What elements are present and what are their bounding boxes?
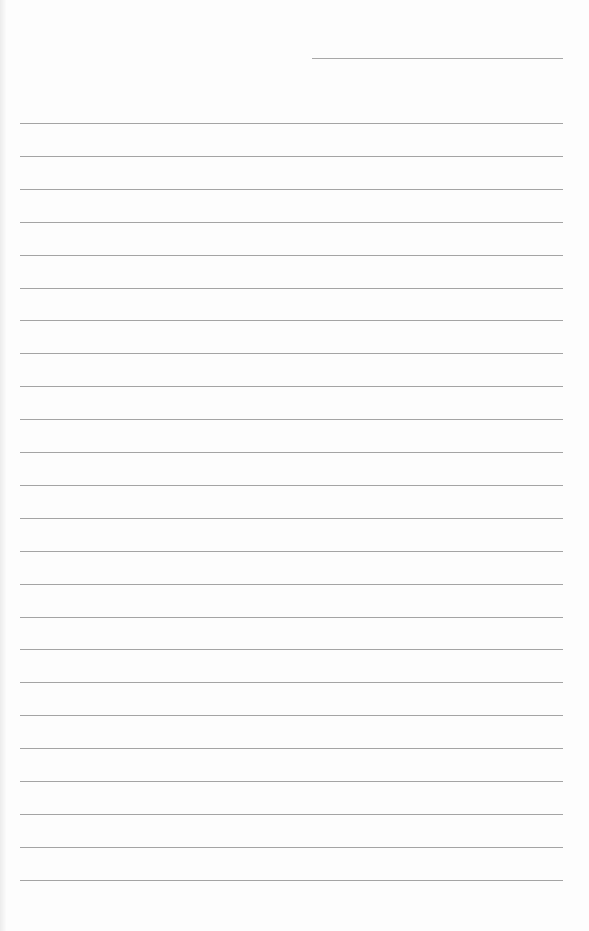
- ruled-line: [20, 551, 563, 552]
- name-date-line: [312, 58, 563, 59]
- ruled-line: [20, 649, 563, 650]
- lined-paper-page: [0, 0, 589, 931]
- ruled-line: [20, 419, 563, 420]
- ruled-line: [20, 123, 563, 124]
- ruled-line: [20, 288, 563, 289]
- ruled-line: [20, 518, 563, 519]
- ruled-line: [20, 320, 563, 321]
- ruled-line: [20, 452, 563, 453]
- ruled-line: [20, 485, 563, 486]
- ruled-line: [20, 617, 563, 618]
- ruled-line: [20, 584, 563, 585]
- ruled-line: [20, 847, 563, 848]
- ruled-line: [20, 189, 563, 190]
- page-edge-shadow: [0, 0, 6, 931]
- ruled-line: [20, 353, 563, 354]
- ruled-line: [20, 880, 563, 881]
- ruled-line: [20, 386, 563, 387]
- ruled-line: [20, 255, 563, 256]
- ruled-line: [20, 748, 563, 749]
- ruled-line: [20, 814, 563, 815]
- ruled-line: [20, 222, 563, 223]
- ruled-line: [20, 156, 563, 157]
- ruled-line: [20, 682, 563, 683]
- ruled-line: [20, 715, 563, 716]
- ruled-line: [20, 781, 563, 782]
